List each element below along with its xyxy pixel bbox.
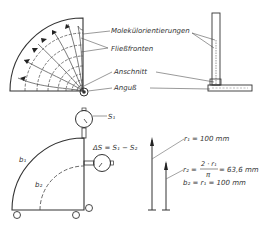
measurement-arc-b2 [40, 166, 84, 210]
foot-middle [73, 212, 80, 219]
label-r1-equation: r₁ = 100 mm [184, 135, 229, 143]
label-flow-fronts: Fließfronten [111, 45, 153, 53]
label-delta-s: ΔS = S₁ − S₂ [92, 144, 138, 152]
flow-front-arcs [25, 33, 83, 91]
quarter-disc-outline [10, 18, 83, 91]
measurement-quarter-b1 [12, 138, 84, 210]
foot-right [86, 205, 93, 212]
sprue-center [82, 90, 86, 94]
label-b2: b₂ [35, 181, 42, 189]
label-molecule-orientation: Molekülorientierungen [111, 27, 190, 35]
label-s1: S₁ [108, 113, 115, 121]
label-b1: b₁ [19, 156, 26, 164]
label-r2-denominator: π [206, 171, 211, 179]
measurement-setup [12, 108, 114, 219]
gauge-top-stem [82, 128, 86, 138]
quarter-disc-flow-fronts [10, 18, 88, 96]
injection-molding-diagram: Molekülorientierungen Fließfronten Ansch… [0, 0, 264, 229]
arrow-r1-head [150, 137, 154, 146]
label-r2-lhs: r₂ = [183, 166, 197, 174]
gauge-side-needle [99, 163, 102, 167]
label-r2-numerator: 2 · r₁ [201, 160, 217, 168]
gauge-top-needle [84, 119, 87, 123]
label-b2-equation: b₂ = r₁ = 100 mm [183, 179, 246, 187]
radius-arrows [148, 137, 184, 210]
top-leader-lines [81, 31, 215, 91]
label-r2-value: = 63,6 mm [219, 166, 259, 174]
arrow-r2-head [164, 161, 168, 170]
label-sprue: Anguß [113, 84, 137, 92]
gauge-side-stem [84, 161, 94, 165]
label-gate: Anschnitt [113, 68, 147, 76]
foot-left [14, 212, 21, 219]
cross-section [208, 13, 252, 91]
flow-arrowheads [20, 24, 70, 81]
